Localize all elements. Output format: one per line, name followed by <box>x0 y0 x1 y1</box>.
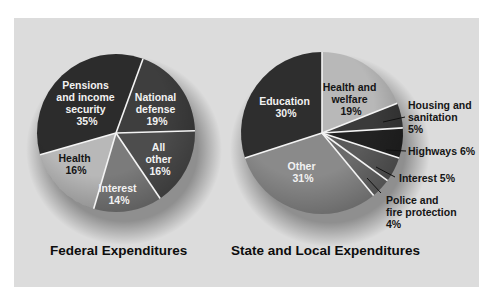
state-title: State and Local Expenditures <box>231 243 420 258</box>
pie-charts: Pensions and income security 35% Nationa… <box>0 0 496 300</box>
federal-title: Federal Expenditures <box>50 243 187 258</box>
state-label-interest: Interest 5% <box>399 172 456 184</box>
state-label-police: Police and fire protection 4% <box>386 194 460 230</box>
state-label-housing: Housing and sanitation 5% <box>408 99 475 135</box>
state-label-highways: Highways 6% <box>408 145 476 157</box>
